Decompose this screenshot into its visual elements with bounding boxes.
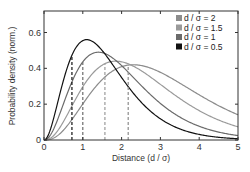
legend: d / σ = 2d / σ = 1.5d / σ = 1d / σ = 0.5 [176,13,223,52]
y-axis-label: Probability density (norm.) [7,26,17,125]
x-axis-label: Distance (d / σ) [112,153,170,163]
x-tick-label: 5 [235,142,240,152]
x-tick-label: 4 [197,142,202,152]
legend-swatch [176,15,182,21]
curve-0.5 [44,40,238,140]
legend-label: d / σ = 1 [184,32,216,42]
legend-swatch [176,34,182,40]
y-tick-label: 0.2 [28,99,41,109]
y-tick-label: 0.4 [28,63,41,73]
probability-density-chart: 012345 00.20.40.6 Distance (d / σ) Proba… [0,0,250,172]
x-tick-label: 1 [80,142,85,152]
x-tick-label: 3 [158,142,163,152]
y-tick-label: 0 [36,135,41,145]
legend-label: d / σ = 1.5 [184,23,223,33]
legend-swatch [176,44,182,50]
legend-swatch [176,25,182,31]
x-tick-label: 2 [119,142,124,152]
y-tick-label: 0.6 [28,28,41,38]
legend-label: d / σ = 2 [184,13,216,23]
curve-group [44,40,238,140]
x-tick-label: 0 [41,142,46,152]
legend-label: d / σ = 0.5 [184,42,223,52]
